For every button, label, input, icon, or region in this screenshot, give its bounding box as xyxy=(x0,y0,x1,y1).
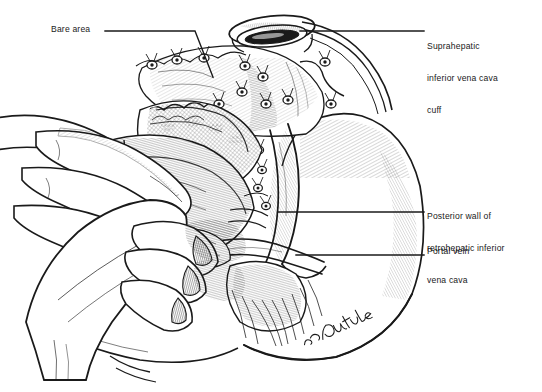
label-line: Suprahepatic xyxy=(427,41,498,52)
label-line: inferior vena cava xyxy=(427,73,498,84)
label-bare-area: Bare area xyxy=(51,24,90,35)
label-suprahepatic-ivc-cuff: Suprahepatic inferior vena cava cuff xyxy=(427,20,498,137)
label-line: cuff xyxy=(427,105,498,116)
label-portal-vein: Portal vein xyxy=(427,246,470,257)
surgical-illustration-figure: Bare area Suprahepatic inferior vena cav… xyxy=(0,0,542,392)
label-line: vena cava xyxy=(427,275,505,286)
label-line: Posterior wall of xyxy=(427,211,505,222)
